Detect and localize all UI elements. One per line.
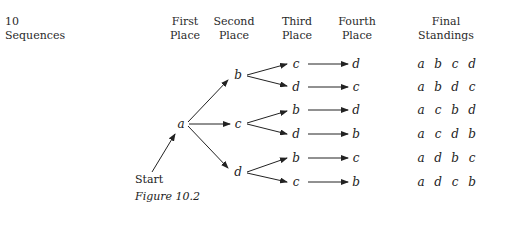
standing-letter: c [435, 103, 442, 117]
standing-letter: c [452, 175, 459, 189]
node-third-4: d [292, 127, 300, 141]
edge-a-b [188, 80, 228, 122]
edge-d-b [247, 158, 287, 172]
standing-letter: d [451, 80, 459, 94]
standing-letter: a [417, 175, 424, 189]
standing-letter: a [417, 151, 424, 165]
node-fourth-2: c [353, 80, 360, 94]
standing-letter: d [468, 57, 476, 71]
standing-letter: c [452, 57, 459, 71]
edge-d-c [247, 173, 287, 182]
standing-letter: d [468, 103, 476, 117]
standing-letter: b [451, 103, 459, 117]
edge-b-d [247, 76, 287, 86]
standing-letter: b [468, 127, 476, 141]
node-third-1: c [293, 57, 300, 71]
node-second-d: d [234, 165, 242, 179]
standing-letter: d [451, 127, 459, 141]
figure-caption: Figure 10.2 [135, 190, 200, 203]
standing-letter: c [469, 151, 476, 165]
node-fourth-1: d [352, 57, 360, 71]
node-second-c: c [235, 117, 242, 131]
node-third-2: d [292, 80, 300, 94]
standing-letter: c [469, 80, 476, 94]
node-fourth-6: b [352, 175, 360, 189]
edge-c-b [247, 111, 287, 123]
node-third-3: b [292, 103, 300, 117]
edge-b-c [247, 64, 287, 75]
node-fourth-4: b [352, 127, 360, 141]
edge-c-d [247, 124, 287, 134]
start-label: Start [135, 173, 163, 186]
standing-letter: d [434, 151, 442, 165]
standing-letter: b [451, 151, 459, 165]
node-third-5: b [292, 151, 300, 165]
node-fourth-3: d [352, 103, 360, 117]
node-fourth-5: c [353, 151, 360, 165]
standing-letter: a [417, 57, 424, 71]
standing-letter: a [417, 103, 424, 117]
edge-a-d [188, 126, 228, 168]
standing-letter: b [468, 175, 476, 189]
node-first-a: a [177, 117, 184, 131]
standing-letter: a [417, 80, 424, 94]
node-second-b: b [234, 68, 242, 82]
standing-letter: b [434, 80, 442, 94]
node-third-6: c [293, 175, 300, 189]
standing-letter: b [434, 57, 442, 71]
start-arrow [152, 134, 175, 172]
standing-letter: c [435, 127, 442, 141]
standing-letter: d [434, 175, 442, 189]
standing-letter: a [417, 127, 424, 141]
